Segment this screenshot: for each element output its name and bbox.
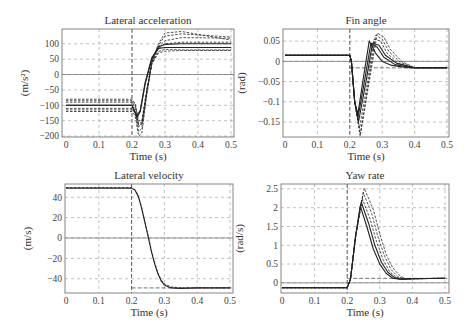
series-var3 [66, 32, 231, 132]
x-tick-label: 0.5 [225, 140, 237, 150]
y-tick-label: 0 [54, 70, 59, 80]
y-tick-label: −0.15 [258, 117, 280, 127]
y-axis-label: (m/s²) [18, 69, 31, 96]
y-tick-label: 0 [273, 278, 278, 288]
series-s5 [282, 188, 445, 288]
series-var4 [66, 42, 231, 136]
y-tick-label: 1 [273, 241, 278, 251]
x-tick-label: 0.1 [93, 296, 105, 306]
y-tick-label: 0.05 [263, 36, 280, 46]
x-tick-label: 0.2 [341, 296, 353, 306]
y-tick-label: −100 [39, 101, 59, 111]
x-tick-label: 0 [280, 296, 285, 306]
y-tick-label: 50 [50, 54, 60, 64]
y-axis-label: (rad) [235, 72, 248, 94]
chart-title: Lateral velocity [114, 169, 184, 181]
x-tick-label: 0.3 [376, 140, 388, 150]
x-tick-label: 0.2 [126, 296, 138, 306]
y-tick-label: −0.05 [258, 77, 280, 87]
chart-title: Fin angle [345, 14, 386, 26]
x-tick-label: 0.5 [439, 296, 451, 306]
x-tick-label: 0.2 [126, 140, 138, 150]
series-var6 [66, 51, 231, 124]
chart-fin_angle: 00.10.20.30.40.50.050−0.05−0.1−0.15Fin a… [235, 14, 453, 163]
y-tick-label: −200 [39, 131, 59, 141]
x-tick-label: 0.3 [158, 296, 170, 306]
x-tick-label: 0 [64, 296, 69, 306]
x-tick-label: 0.4 [406, 296, 418, 306]
y-tick-label: 0 [275, 57, 280, 67]
chart-title: Lateral acceleration [104, 14, 192, 26]
x-axis-label: Time (s) [129, 150, 167, 163]
series-s5 [285, 35, 447, 134]
figure-canvas: 00.10.20.30.40.5100500−50−100−150−200Lat… [0, 0, 474, 332]
x-tick-label: 0.4 [409, 140, 421, 150]
plot-frame [281, 184, 449, 293]
x-tick-label: 0 [64, 140, 69, 150]
y-tick-label: 0.5 [266, 259, 278, 269]
x-tick-label: 0.1 [309, 296, 321, 306]
series-var5 [66, 49, 231, 127]
x-axis-label: Time (s) [347, 150, 385, 163]
y-axis-label: (rad/s) [233, 224, 246, 253]
y-tick-label: 100 [45, 39, 60, 49]
series-s4 [282, 193, 445, 288]
series-nominal [282, 206, 445, 288]
y-tick-label: 40 [53, 193, 63, 203]
x-tick-label: 0.5 [224, 296, 236, 306]
chart-lat_acc: 00.10.20.30.40.5100500−50−100−150−200Lat… [18, 14, 237, 163]
chart-lat_vel: 00.10.20.30.40.540200−20−40Lateral veloc… [21, 169, 236, 319]
x-tick-label: 0.4 [191, 296, 203, 306]
y-tick-label: 20 [53, 213, 63, 223]
x-tick-label: 0.3 [159, 140, 171, 150]
x-tick-label: 0 [283, 140, 288, 150]
x-tick-label: 0.1 [93, 140, 105, 150]
series-s3 [282, 198, 445, 287]
x-tick-label: 0.5 [441, 140, 453, 150]
x-tick-label: 0.1 [311, 140, 323, 150]
y-tick-label: 2.5 [266, 184, 278, 194]
y-tick-label: 2 [273, 203, 278, 213]
chart-title: Yaw rate [346, 169, 385, 181]
y-tick-label: −50 [44, 85, 59, 95]
y-tick-label: −40 [47, 274, 62, 284]
y-tick-label: 1.5 [266, 222, 278, 232]
x-axis-label: Time (s) [130, 306, 168, 319]
y-tick-label: −0.1 [263, 97, 280, 107]
x-tick-label: 0.2 [344, 140, 356, 150]
chart-yaw_rate: 00.10.20.30.40.52.521.510.50Yaw rateTime… [233, 169, 451, 319]
x-axis-label: Time (s) [346, 306, 384, 319]
y-axis-label: (m/s) [21, 227, 34, 251]
x-tick-label: 0.4 [192, 140, 204, 150]
y-tick-label: −20 [47, 254, 62, 264]
y-tick-label: 0 [57, 233, 62, 243]
x-tick-label: 0.3 [374, 296, 386, 306]
y-tick-label: −150 [39, 116, 59, 126]
